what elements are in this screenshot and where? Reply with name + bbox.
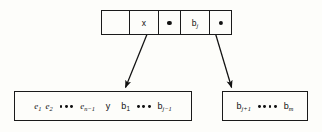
ellipsis-dots-3 <box>258 105 277 108</box>
right-child-record-node: bj+1 bm <box>222 91 308 121</box>
parent-record-node: x bj <box>101 10 232 35</box>
cell-key-x: x <box>130 11 160 34</box>
diagram-canvas: x bj e1 e2 en−1 y b1 bj−1 <box>0 0 322 132</box>
key-x-label: x <box>142 18 146 28</box>
token-e2: e2 <box>45 101 52 111</box>
ellipsis-dots-1 <box>60 105 74 108</box>
pointer-dot-left-icon <box>167 20 171 24</box>
right-child-sequence: bj+1 bm <box>237 101 294 111</box>
key-bj-subscript: j <box>197 22 199 29</box>
pointer-dot-right-icon <box>219 20 223 24</box>
ellipsis-dots-2 <box>137 105 151 108</box>
cell-empty-left <box>102 11 130 34</box>
key-bj-label: bj <box>192 18 199 28</box>
token-b1: b1 <box>121 101 130 111</box>
key-bj-base: b <box>192 18 197 28</box>
token-bm: bm <box>284 101 294 111</box>
token-bj-1: bj−1 <box>158 101 172 111</box>
cell-pointer-left <box>159 11 181 34</box>
left-child-sequence: e1 e2 en−1 y b1 bj−1 <box>34 101 172 111</box>
token-en-1: en−1 <box>80 101 95 111</box>
left-child-record-node: e1 e2 en−1 y b1 bj−1 <box>14 91 192 121</box>
cell-pointer-right <box>210 11 231 34</box>
token-y: y <box>106 101 111 111</box>
token-e1: e1 <box>34 101 41 111</box>
token-bj+1: bj+1 <box>237 101 251 111</box>
cell-key-bj: bj <box>181 11 211 34</box>
